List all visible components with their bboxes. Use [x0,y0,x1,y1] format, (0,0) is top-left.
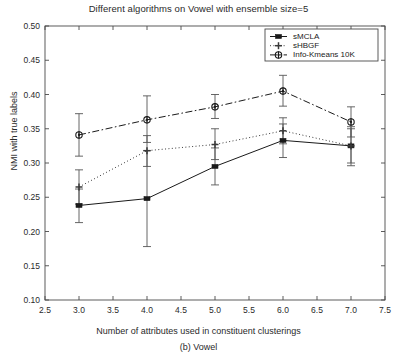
x-axis-tick-label: 7.5 [379,305,391,315]
figure-caption: (b) Vowel [0,342,397,352]
y-axis-tick-label: 0.15 [23,261,40,271]
x-axis-tick-label: 7.0 [345,305,357,315]
legend-label-shbgf: sHBGF [293,41,319,50]
x-axis-tick-label: 3.0 [73,305,85,315]
figure-container: Different algorithms on Vowel with ensem… [0,0,397,356]
x-axis-tick-label: 4.0 [141,305,153,315]
data-point-smcla [280,138,286,142]
x-axis-tick-label: 5.0 [209,305,221,315]
y-axis-label: NMI with true labels [9,61,19,201]
x-axis-tick-label: 4.5 [175,305,187,315]
x-axis-tick-label: 3.5 [107,305,119,315]
legend-label-smcla: sMCLA [293,32,320,41]
data-point-info-kmeans-10k [350,121,352,123]
data-point-info-kmeans-10k [78,134,80,136]
legend-label-info-kmeans-10k: Info-Kmeans 10K [293,50,355,59]
x-axis-tick-label: 5.5 [243,305,255,315]
y-axis-tick-label: 0.10 [23,295,40,305]
data-point-smcla [76,203,82,207]
data-point-info-kmeans-10k [282,90,284,92]
data-point-info-kmeans-10k [214,106,216,108]
y-axis-tick-label: 0.50 [23,21,40,31]
x-axis-tick-label: 6.0 [277,305,289,315]
y-axis-tick-label: 0.40 [23,90,40,100]
y-axis-tick-label: 0.20 [23,227,40,237]
x-axis-tick-label: 6.5 [311,305,323,315]
x-axis-label: Number of attributes used in constituent… [0,326,397,336]
y-axis-tick-label: 0.25 [23,192,40,202]
y-axis-tick-label: 0.30 [23,158,40,168]
data-point-smcla [144,197,150,201]
data-point-smcla [212,164,218,168]
chart-plot-area: 0.100.150.200.250.300.350.400.450.502.53… [0,0,397,356]
x-axis-tick-label: 2.5 [39,305,51,315]
legend-marker-info-kmeans-10k [277,54,279,56]
legend-marker-smcla [276,35,282,39]
y-axis-tick-label: 0.35 [23,124,40,134]
y-axis-tick-label: 0.45 [23,55,40,65]
data-point-info-kmeans-10k [146,119,148,121]
